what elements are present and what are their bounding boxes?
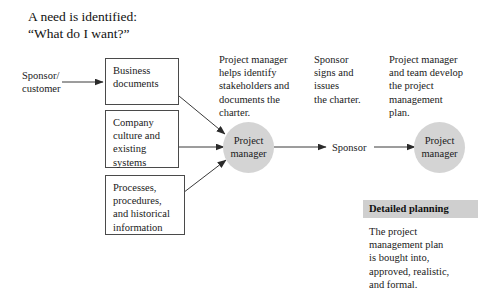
label-sponsor-mid: Sponsor <box>332 141 382 154</box>
callout-detailed-planning: Detailed planning The project management… <box>363 200 478 291</box>
node-project-manager-1[interactable]: Project manager <box>223 122 274 173</box>
text-pm-charter: Project manager helps identify stakehold… <box>219 53 311 119</box>
title-line-1: A need is identified: <box>28 8 258 25</box>
page-title: A need is identified: “What do I want?” <box>28 8 258 42</box>
text-pm-team-plan: Project manager and team develop the pro… <box>389 53 485 119</box>
arrow-processes-to-pm <box>179 160 226 196</box>
callout-body: The project management plan is bought in… <box>363 225 478 291</box>
box-business-documents[interactable]: Business documents <box>105 58 179 105</box>
box-processes-procedures[interactable]: Processes, procedures, and historical in… <box>105 175 185 235</box>
box-company-culture[interactable]: Company culture and existing systems <box>105 110 179 168</box>
title-line-2: “What do I want?” <box>28 25 258 42</box>
text-sponsor-signs: Sponsor signs and issues the charter. <box>314 53 384 106</box>
diagram-canvas: A need is identified: “What do I want?” … <box>0 0 490 305</box>
callout-header: Detailed planning <box>363 200 478 218</box>
node-project-manager-2[interactable]: Project manager <box>414 122 465 173</box>
label-sponsor-customer: Sponsor/ customer <box>22 69 82 95</box>
